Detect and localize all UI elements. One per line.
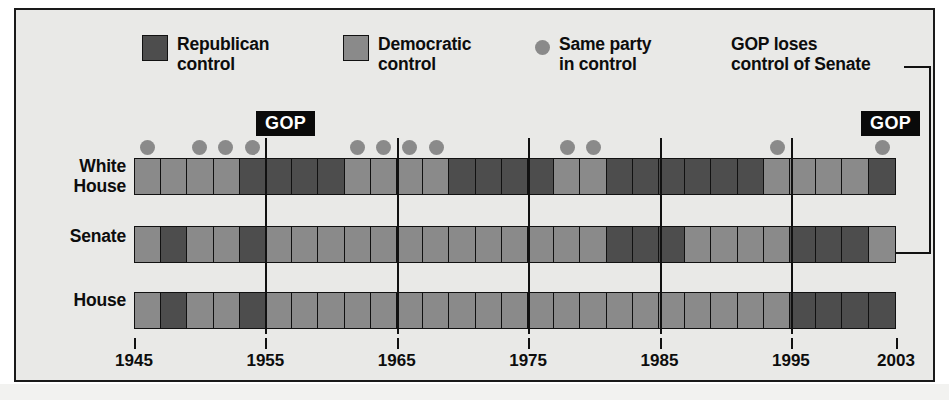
same-party-dot [402,140,417,155]
square-swatch-icon [142,35,168,61]
bar-cell [842,159,868,194]
annotation-gop-loses-senate: GOP loses control of Senate [731,34,871,74]
bar-cell [292,293,318,328]
chart-figure: Republican control Democratic control Sa… [0,0,949,400]
axis-tick-label: 1955 [246,351,284,371]
bar-cell [371,227,397,262]
axis-tick-label: 1945 [115,351,153,371]
row-label-white-house: White House [22,156,126,196]
bar-cell [502,227,528,262]
legend-label-same-party: Same party in control [559,34,651,74]
bar-cell [161,159,187,194]
chart-panel: Republican control Democratic control Sa… [14,8,935,382]
axis-tick [660,338,662,349]
bar-cell [528,227,554,262]
axis-tick [265,338,267,349]
same-party-dot [140,140,155,155]
annotation-pointer-stub [904,66,931,68]
bar-cell [161,227,187,262]
legend-label-republican: Republican control [177,34,269,74]
legend-label-democratic: Democratic control [378,34,471,74]
bar-cell [685,159,711,194]
bar-cell [685,293,711,328]
bar-cell [318,227,344,262]
bar-cell [580,293,606,328]
bar-cell [240,293,266,328]
bar-cell [397,293,423,328]
bar-row-white-house [134,158,896,195]
circle-dot-icon [535,40,550,55]
annotation-label: GOP loses control of Senate [731,34,871,74]
bar-cell [738,227,764,262]
same-party-dot [192,140,207,155]
bar-cell [371,159,397,194]
bar-cell [869,227,895,262]
bar-cell [371,293,397,328]
bar-row-senate [134,226,896,263]
bar-cell [659,227,685,262]
same-party-dot [245,140,260,155]
bar-cell [764,227,790,262]
bar-cell [240,227,266,262]
legend-item-same-party: Same party in control [535,34,651,74]
bar-cell [397,227,423,262]
gridline [397,138,399,334]
bar-cell [214,293,240,328]
bar-cell [476,227,502,262]
axis-tick [896,338,898,349]
bar-cell [790,227,816,262]
bar-cell [449,293,475,328]
bar-cell [607,227,633,262]
same-party-dot [429,140,444,155]
axis-tick-label: 1985 [641,351,679,371]
same-party-dot [560,140,575,155]
bar-cell [502,293,528,328]
bar-cell [842,227,868,262]
bar-cell [397,159,423,194]
same-party-marker-row [134,138,896,158]
bar-cell [764,159,790,194]
bar-cell [292,227,318,262]
bar-cell [502,159,528,194]
bar-cell [345,159,371,194]
axis-tick-label: 2003 [877,351,915,371]
callout-gop-1954: GOP [256,111,315,136]
chart-legend: Republican control Democratic control Sa… [16,10,937,82]
bar-cell [869,293,895,328]
paper-texture-band [0,384,949,400]
bar-cell [187,293,213,328]
bar-cell [554,159,580,194]
bar-cell [187,159,213,194]
bar-cell [135,159,161,194]
bar-cell [711,293,737,328]
bar-cell [345,293,371,328]
axis-tick [528,338,530,349]
bar-cell [135,227,161,262]
bar-cell [476,159,502,194]
same-party-dot [586,140,601,155]
bar-cell [423,293,449,328]
bar-cell [607,293,633,328]
bar-cell [842,293,868,328]
bar-cell [633,227,659,262]
bar-cell [580,159,606,194]
gridline [528,138,530,334]
bar-cell [816,227,842,262]
row-label-house: House [22,290,126,310]
bar-cell [266,293,292,328]
axis-tick-label: 1965 [378,351,416,371]
bar-cell [659,159,685,194]
callout-gop-2001: GOP [861,111,920,136]
x-axis: 1945195519651975198519952003 [134,338,896,378]
bar-cell [266,159,292,194]
bar-cell [711,227,737,262]
bar-cell [449,227,475,262]
bar-cell [449,159,475,194]
bar-cell [266,227,292,262]
legend-item-republican: Republican control [142,34,269,74]
bar-cell [318,159,344,194]
bar-cell [318,293,344,328]
bar-cell [633,159,659,194]
axis-tick [397,338,399,349]
bar-cell [423,159,449,194]
